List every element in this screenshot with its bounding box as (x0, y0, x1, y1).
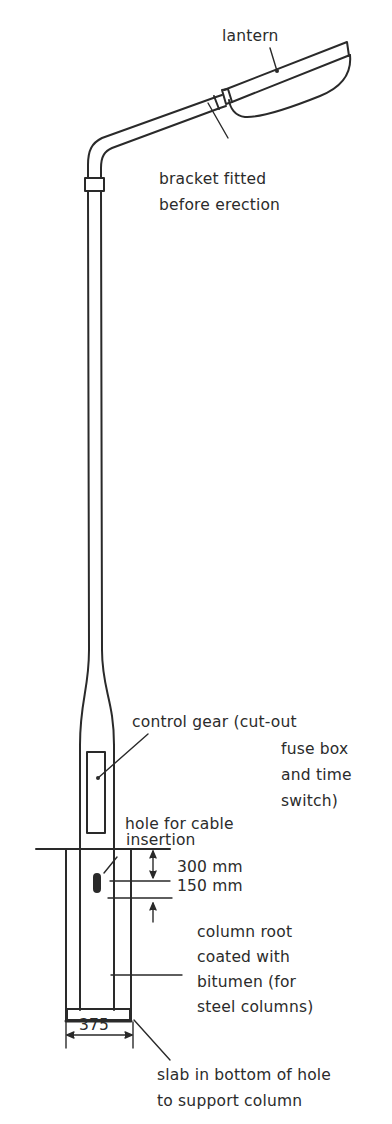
control-gear-box (87, 752, 105, 833)
label-dim-375: 375 (79, 1016, 109, 1034)
label-root-2: coated with (197, 948, 290, 966)
label-control-gear-1: control gear (cut-out (132, 713, 297, 731)
cable-hole (94, 874, 100, 892)
label-control-gear-4: switch) (281, 792, 338, 810)
collar (85, 178, 104, 191)
label-cable-hole-2: insertion (126, 831, 196, 849)
label-dim-300: 300 mm (177, 858, 243, 876)
label-lantern: lantern (222, 27, 279, 45)
label-root-3: bitumen (for (197, 973, 296, 991)
label-control-gear-2: fuse box (281, 740, 348, 758)
foundation-hole (36, 849, 170, 1021)
label-dim-150: 150 mm (177, 877, 243, 895)
label-bracket-2: before erection (159, 196, 280, 214)
label-root-1: column root (197, 923, 292, 941)
label-slab-2: to support column (157, 1092, 302, 1110)
label-slab-1: slab in bottom of hole (157, 1066, 331, 1084)
label-bracket-1: bracket fitted (159, 170, 266, 188)
lamp-column-drawing (0, 0, 392, 1124)
depth-dimensions (108, 851, 172, 922)
lantern-shape (222, 42, 350, 117)
bracket-arm (88, 95, 226, 178)
label-control-gear-3: and time (281, 766, 352, 784)
label-root-4: steel columns) (197, 998, 313, 1016)
